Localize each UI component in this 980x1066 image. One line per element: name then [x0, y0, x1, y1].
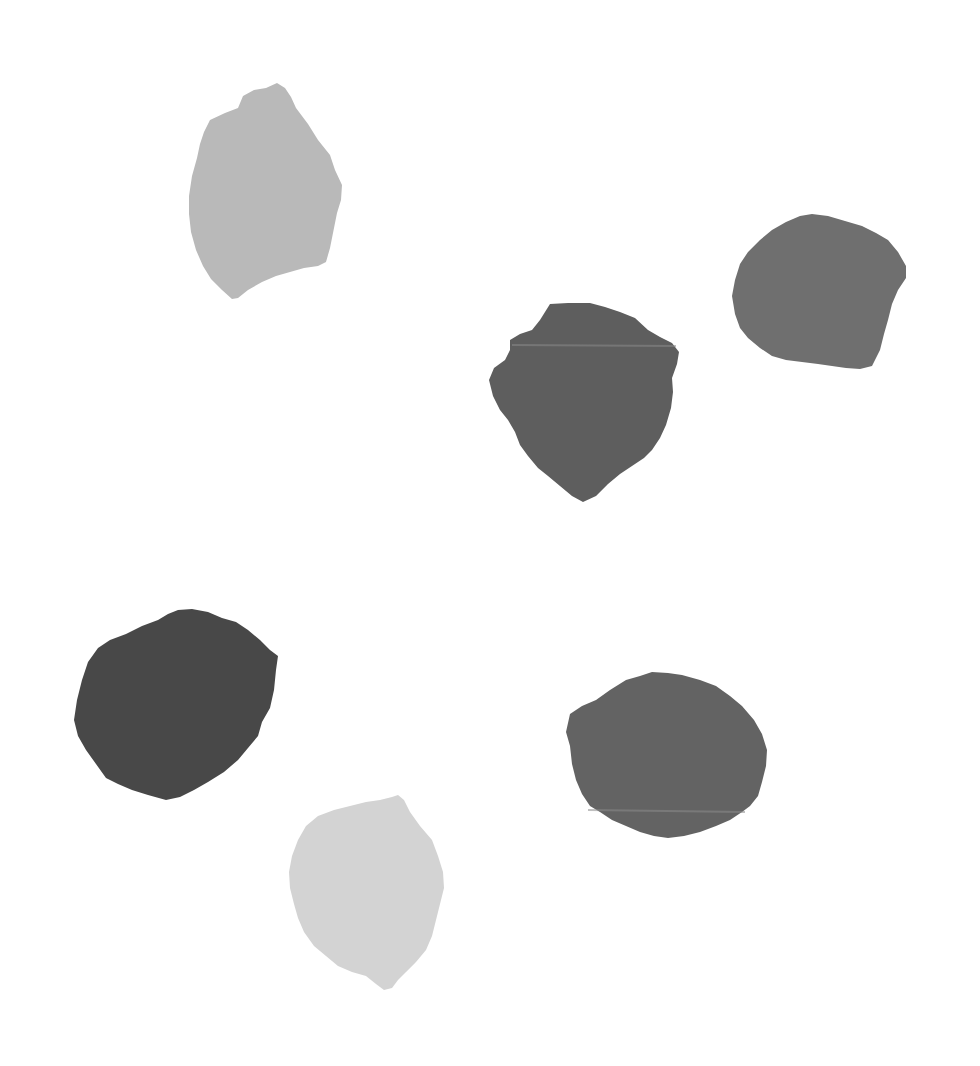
swatch-dark-gray-center	[489, 303, 679, 502]
tear-line-center-swatch	[512, 345, 676, 346]
swatch-medium-gray-top-right	[732, 214, 906, 369]
swatch-scene	[0, 0, 980, 1066]
swatch-pale-gray-bottom-center	[289, 795, 444, 990]
canvas	[0, 0, 980, 1066]
swatch-light-gray-top-left	[189, 83, 342, 299]
swatch-dark-gray-bottom-right	[566, 672, 767, 838]
swatch-charcoal-bottom-left	[74, 609, 278, 800]
